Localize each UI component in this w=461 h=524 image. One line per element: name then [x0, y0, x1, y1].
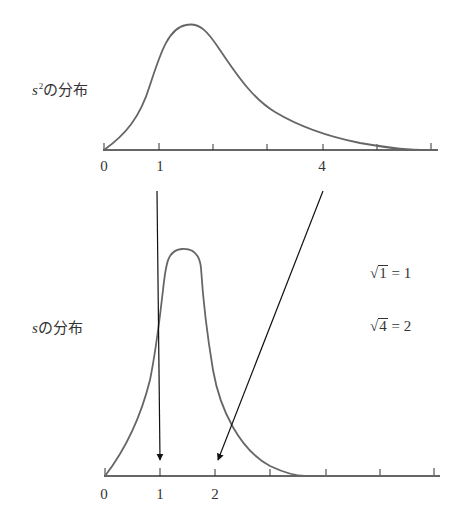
top-chart-label: s2の分布: [32, 78, 88, 99]
label-variable: s: [32, 82, 38, 98]
equation-sqrt-1: √1 = 1: [370, 265, 411, 282]
sqrt-icon: √: [370, 265, 378, 281]
equation-result: = 2: [391, 318, 411, 334]
bottom-tick-label-0: 0: [100, 486, 108, 503]
arrow-4-to-2: [218, 191, 323, 460]
s-squared-density-curve: [104, 24, 438, 150]
label-suffix: の分布: [43, 82, 88, 98]
top-tick-label-4: 4: [318, 158, 326, 175]
bottom-tick-label-1: 1: [156, 486, 164, 503]
equation-result: = 1: [391, 265, 411, 281]
equation-sqrt-4: √4 = 2: [370, 318, 411, 335]
bottom-axis: [104, 468, 440, 476]
label-suffix: の分布: [38, 320, 83, 336]
top-tick-label-0: 0: [100, 158, 108, 175]
top-tick-label-1: 1: [156, 158, 164, 175]
bottom-chart-label: sの分布: [32, 316, 83, 337]
sqrt-icon: √: [370, 318, 378, 334]
radicand: 4: [378, 318, 388, 334]
s-density-curve: [105, 249, 440, 476]
bottom-tick-label-2: 2: [211, 486, 219, 503]
radicand: 1: [378, 265, 388, 281]
